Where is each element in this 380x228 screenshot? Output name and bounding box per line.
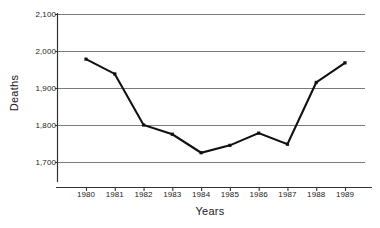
x-axis-title: Years — [55, 205, 365, 217]
x-axis-tick-labels: 1980198119821983198419851986198719881989 — [0, 190, 380, 204]
x-axis-tick-label: 1980 — [77, 190, 95, 199]
data-point-marker — [200, 151, 203, 154]
x-axis-tick-label: 1987 — [278, 190, 296, 199]
x-axis-tick-label: 1986 — [250, 190, 268, 199]
gridlines — [58, 15, 365, 163]
data-point-markers — [84, 58, 346, 155]
data-point-marker — [84, 58, 87, 61]
data-point-marker — [286, 143, 289, 146]
data-point-marker — [171, 133, 174, 136]
x-axis-tick-label: 1982 — [134, 190, 152, 199]
data-point-marker — [113, 72, 116, 75]
x-axis-tick-label: 1989 — [336, 190, 354, 199]
data-point-marker — [228, 144, 231, 147]
data-point-marker — [142, 123, 145, 126]
axis-lines — [56, 13, 372, 188]
data-point-marker — [343, 61, 346, 64]
x-axis-tick-label: 1983 — [163, 190, 181, 199]
data-point-marker — [315, 81, 318, 84]
data-point-marker — [257, 132, 260, 135]
x-axis-tick-label: 1984 — [192, 190, 210, 199]
x-axis-tick-label: 1981 — [106, 190, 124, 199]
x-axis-tick-label: 1985 — [221, 190, 239, 199]
chart-figure: Deaths 2,1002,0001,9001,8001,700 1980198… — [0, 0, 380, 228]
data-line-deaths — [86, 59, 345, 153]
x-axis-tick-label: 1988 — [307, 190, 325, 199]
